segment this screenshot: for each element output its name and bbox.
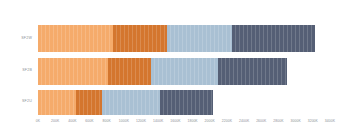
- bar-row[interactable]: [38, 90, 213, 115]
- bar-segment[interactable]: [76, 90, 103, 115]
- bar-segment[interactable]: [151, 58, 219, 85]
- bar-segment[interactable]: [38, 25, 113, 52]
- x-axis-tick-label: 0K: [36, 120, 40, 123]
- bar-segment[interactable]: [108, 58, 150, 85]
- x-axis-tick-label: 1600K: [170, 120, 180, 123]
- y-axis-tick-label: SF2U: [22, 100, 32, 104]
- x-axis-tick-label: 2200K: [222, 120, 232, 123]
- x-axis-tick-label: 3200K: [308, 120, 318, 123]
- x-axis-tick-label: 1800K: [187, 120, 197, 123]
- bar-segment[interactable]: [218, 58, 287, 85]
- bar-segment[interactable]: [113, 25, 167, 52]
- bar-segment[interactable]: [160, 90, 213, 115]
- x-axis-tick-label: 1200K: [136, 120, 146, 123]
- bar-row[interactable]: [38, 25, 315, 52]
- x-axis-tick-label: 2600K: [256, 120, 266, 123]
- x-axis-tick-label: 800K: [103, 120, 111, 123]
- x-axis: 0K200K400K600K800K1000K1200K1400K1600K18…: [38, 120, 330, 130]
- stacked-bar-chart: SF2W SF2B SF2U 0K200K400K600K800K1000K12…: [0, 0, 343, 132]
- bar-segment[interactable]: [102, 90, 160, 115]
- bar-segment[interactable]: [38, 90, 76, 115]
- x-axis-tick-label: 2800K: [273, 120, 283, 123]
- bar-row[interactable]: [38, 58, 287, 85]
- x-axis-tick-label: 1000K: [119, 120, 129, 123]
- x-axis-tick-label: 200K: [51, 120, 59, 123]
- bar-segment[interactable]: [38, 58, 108, 85]
- bar-segment[interactable]: [167, 25, 232, 52]
- x-axis-tick-label: 3400K: [325, 120, 335, 123]
- y-axis-labels: SF2W SF2B SF2U: [0, 22, 36, 118]
- plot-area: [38, 22, 330, 118]
- x-axis-tick-label: 2400K: [239, 120, 249, 123]
- x-axis-tick-label: 600K: [85, 120, 93, 123]
- x-axis-tick-label: 400K: [68, 120, 76, 123]
- x-axis-tick-label: 1400K: [153, 120, 163, 123]
- y-axis-tick-label: SF2W: [21, 37, 32, 41]
- bar-segment[interactable]: [232, 25, 315, 52]
- y-axis-tick-label: SF2B: [22, 69, 32, 73]
- x-axis-tick-label: 3000K: [290, 120, 300, 123]
- x-axis-tick-label: 2000K: [205, 120, 215, 123]
